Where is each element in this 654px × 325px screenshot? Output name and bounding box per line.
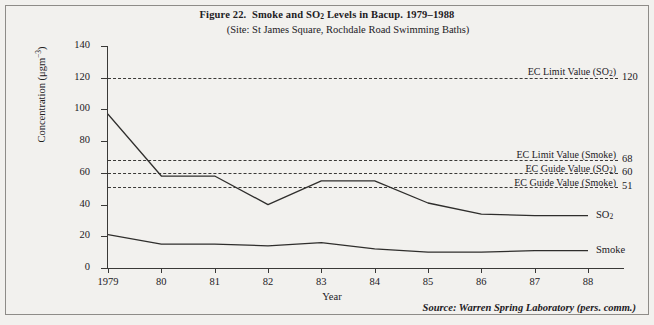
y-tick-mark [101,205,107,206]
x-tick-label: 82 [238,276,298,287]
plot-area [108,46,588,268]
x-tick-mark [321,268,322,273]
y-tick-label: 0 [20,261,90,272]
x-tick-label: 80 [131,276,191,287]
x-tick-label: 86 [451,276,511,287]
reference-line-value: 120 [622,71,638,82]
x-tick-mark [481,268,482,273]
y-tick-label: 20 [20,229,90,240]
y-axis-label: Concentration (μgm−3) [34,15,47,175]
x-tick-mark [215,268,216,273]
x-tick-label: 83 [291,276,351,287]
x-tick-mark [108,268,109,273]
reference-line-value: 51 [622,180,633,191]
y-tick-mark [101,141,107,142]
x-axis-label: Year [0,291,654,302]
x-tick-mark [375,268,376,273]
y-tick-label: 40 [20,198,90,209]
reference-line-value: 60 [622,166,633,177]
y-tick-label: 120 [20,71,90,82]
y-tick-mark [101,109,107,110]
x-tick-label: 88 [558,276,618,287]
series-label-so2: SO2 [596,209,613,221]
x-tick-label: 81 [185,276,245,287]
x-axis-line [107,268,624,269]
x-tick-label: 1979 [78,276,138,287]
x-tick-label: 84 [345,276,405,287]
y-tick-label: 60 [20,166,90,177]
x-tick-mark [588,268,589,273]
y-tick-label: 140 [20,39,90,50]
reference-line-value: 68 [622,153,633,164]
y-tick-mark [101,173,107,174]
y-tick-label: 80 [20,134,90,145]
figure-page: Figure 22. Smoke and SO2 Levels in Bacup… [0,0,654,325]
x-tick-mark [161,268,162,273]
y-tick-mark [101,268,107,269]
x-tick-label: 87 [505,276,565,287]
y-tick-mark [101,236,107,237]
series-line-so2 [108,114,588,215]
x-tick-label: 85 [398,276,458,287]
y-tick-label: 100 [20,102,90,113]
series-line-smoke [108,235,588,252]
y-tick-mark [101,78,107,79]
x-tick-mark [268,268,269,273]
y-tick-mark [101,46,107,47]
x-tick-mark [428,268,429,273]
x-tick-mark [535,268,536,273]
source-note: Source: Warren Spring Laboratory (pers. … [423,302,636,313]
series-label-smoke: Smoke [596,244,625,255]
